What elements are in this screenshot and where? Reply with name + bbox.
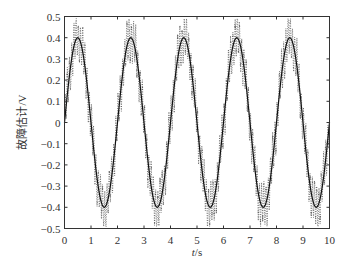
y-tick-label: 0 <box>55 117 61 129</box>
y-tick-label: −0.4 <box>41 201 61 213</box>
series-actual-fault <box>65 38 330 208</box>
x-tick-label: 4 <box>168 234 174 246</box>
x-tick-label: 3 <box>141 234 147 246</box>
x-tick-label: 7 <box>247 234 253 246</box>
plot-area <box>65 19 330 227</box>
x-tick-label: 0 <box>62 234 68 246</box>
x-tick-label: 10 <box>324 234 336 246</box>
y-tick-label: 0.3 <box>47 53 61 65</box>
x-tick-label: 8 <box>274 234 280 246</box>
y-tick-label: −0.2 <box>41 159 61 171</box>
y-tick-label: −0.5 <box>41 223 61 235</box>
x-tick-label: 9 <box>300 234 306 246</box>
x-tick-label: 5 <box>194 234 200 246</box>
x-axis-title: t/s <box>192 246 202 258</box>
x-tick-label: 6 <box>221 234 227 246</box>
y-axis-title: 故障估计/V <box>15 94 28 149</box>
y-tick-label: −0.3 <box>41 180 61 192</box>
x-tick-label: 1 <box>88 234 94 246</box>
y-tick-label: 0.2 <box>47 74 61 86</box>
y-tick-label: 0.5 <box>47 11 61 23</box>
y-tick-label: 0.1 <box>47 95 61 107</box>
y-tick-label: 0.4 <box>47 32 61 44</box>
chart: 012345678910 0.50.40.30.20.10−0.1−0.2−0.… <box>0 0 349 269</box>
x-tick-label: 2 <box>115 234 121 246</box>
y-tick-label: −0.1 <box>41 138 61 150</box>
